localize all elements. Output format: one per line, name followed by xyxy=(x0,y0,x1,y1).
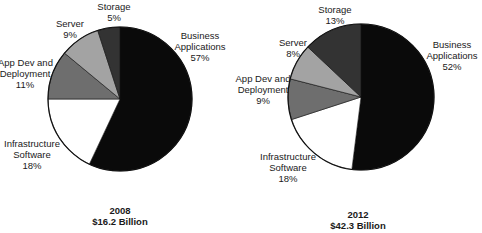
label-app-dev-2012: App Dev andDeployment9% xyxy=(235,73,291,106)
label-business-applications-2008: BusinessApplications57% xyxy=(170,30,230,63)
caption-2012: 2012$42.3 Billion xyxy=(298,209,418,231)
label-infrastructure-2012: InfrastructureSoftware18% xyxy=(258,151,318,184)
label-server-2008: Server9% xyxy=(50,18,90,40)
label-storage-2012: Storage13% xyxy=(313,4,357,26)
caption-2008: 2008$16.2 Billion xyxy=(60,205,180,227)
label-storage-2008: Storage5% xyxy=(94,1,134,23)
label-app-dev-2008: App Dev andDeployment11% xyxy=(0,57,52,90)
label-infrastructure-2008: InfrastructureSoftware18% xyxy=(2,138,62,171)
label-server-2012: Server8% xyxy=(275,37,311,59)
label-business-applications-2012: BusinessApplications52% xyxy=(422,39,482,72)
